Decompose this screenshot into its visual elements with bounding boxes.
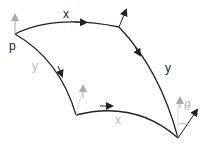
parallel-transport-diagram: p x y y x θ [0, 0, 210, 144]
vector-bottom-left-corner [76, 86, 83, 115]
edge-label-top-x: x [63, 7, 69, 21]
vector-top-right-corner [119, 10, 126, 27]
edge-left-y [15, 34, 76, 115]
edge-label-right-y: y [165, 61, 171, 75]
angle-label-theta: θ [184, 98, 191, 113]
vector-bottom-right-transported [178, 110, 197, 138]
edge-right-y [119, 27, 178, 138]
edge-top-x [15, 22, 119, 34]
vector-bottom-right-original [178, 98, 180, 138]
edge-label-bottom-x: x [115, 113, 121, 127]
edge-label-left-y: y [32, 59, 38, 73]
edge-bottom-x [76, 106, 178, 138]
point-label-p: p [9, 39, 16, 53]
